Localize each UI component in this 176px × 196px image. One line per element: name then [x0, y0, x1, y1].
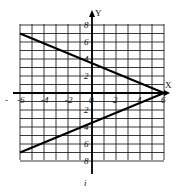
- y-tick-label: 2: [84, 71, 89, 81]
- x-tick-label: -4: [41, 95, 49, 105]
- x-tick-label: 0: [89, 95, 94, 105]
- footer-mark: i: [84, 178, 87, 188]
- x-tick-label: 2: [113, 95, 118, 105]
- y-tick-label: 8: [84, 156, 89, 166]
- axes: [13, 10, 170, 174]
- y-tick-label: 2: [84, 105, 89, 115]
- x-axis-dash-mark: -: [5, 95, 8, 105]
- y-tick-label: 6: [84, 37, 89, 47]
- y-tick-label: 4: [84, 54, 89, 64]
- y-tick-label: 8: [84, 20, 89, 30]
- x-tick-label: 4: [137, 95, 142, 105]
- x-tick-label: -6: [17, 95, 25, 105]
- x-tick-label: -2: [65, 95, 73, 105]
- coordinate-plane-chart: -6-4-2024686422468- X Y i: [0, 0, 176, 196]
- x-tick-label: 6: [161, 95, 166, 105]
- y-tick-label: 6: [84, 139, 89, 149]
- x-axis-label: X: [165, 80, 172, 90]
- y-tick-label: 4: [84, 122, 89, 132]
- y-axis-label: Y: [95, 8, 102, 18]
